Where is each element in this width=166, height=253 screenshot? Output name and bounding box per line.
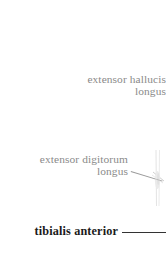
label-extensor-hallucis-longus-line-2: longus <box>0 86 166 98</box>
anatomical-figure-label-panel: extensor hallucis longus extensor digito… <box>0 0 166 253</box>
leader-line-tibialis-anterior <box>122 232 166 233</box>
anatomy-illustration-fragment <box>150 150 166 206</box>
label-tibialis-anterior: tibialis anterior <box>0 225 118 238</box>
label-tibialis-anterior-line-1: tibialis anterior <box>0 225 118 238</box>
label-extensor-digitorum-longus-line-2: longus <box>0 166 128 178</box>
label-extensor-hallucis-longus: extensor hallucis longus <box>0 74 166 98</box>
label-extensor-digitorum-longus: extensor digitorum longus <box>0 154 128 178</box>
